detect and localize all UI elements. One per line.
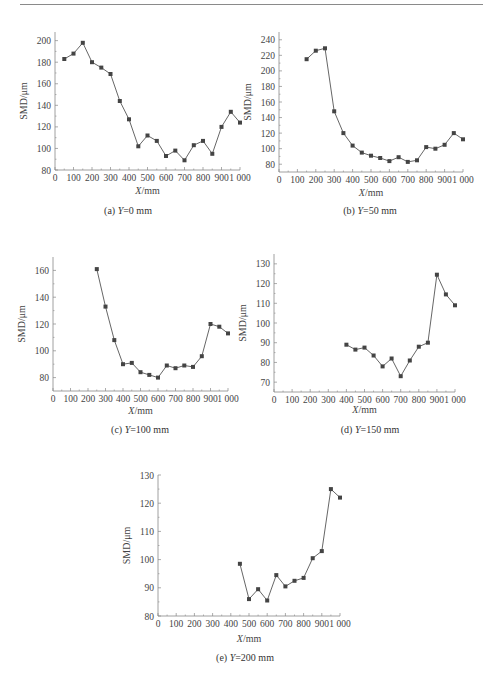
data-point [147, 373, 151, 377]
data-point [435, 273, 439, 277]
x-tick-label: 900 [214, 173, 229, 183]
data-point [226, 331, 230, 335]
x-tick-label: 200 [303, 395, 318, 405]
y-axis-label: SMD/μm [121, 526, 132, 564]
chart-caption: (a) Y=0 mm [104, 205, 152, 217]
data-point [341, 131, 345, 135]
y-tick-label: 70 [261, 378, 271, 388]
data-point [406, 160, 410, 164]
y-tick-label: 120 [35, 320, 50, 330]
data-point [353, 348, 357, 352]
caption-suffix: =150 mm [361, 424, 400, 435]
data-point [320, 549, 324, 553]
y-tick-label: 140 [35, 293, 50, 303]
caption-suffix: =50 mm [363, 205, 397, 216]
y-tick-label: 130 [140, 471, 155, 481]
caption-prefix: (e) [216, 652, 230, 664]
x-tick-label: 800 [296, 619, 311, 629]
chart-caption: (c) Y=100 mm [111, 424, 169, 436]
x-axis-label-unit: /mm [243, 633, 262, 644]
data-point [452, 131, 456, 135]
data-point [363, 346, 367, 350]
caption-suffix: =100 mm [130, 424, 169, 435]
data-point [302, 576, 306, 580]
x-tick-label: 400 [122, 173, 137, 183]
chart-panel-e: 01002003004005006007008009001 0008090100… [121, 471, 351, 665]
data-point [99, 66, 103, 70]
data-point [192, 143, 196, 147]
data-point [274, 573, 278, 577]
data-point [305, 57, 309, 61]
x-tick-label: 300 [321, 395, 336, 405]
data-point [417, 345, 421, 349]
data-point [121, 362, 125, 366]
data-point [314, 49, 318, 53]
chart-panel-c: 01002003004005006007008009001 0008010012… [16, 257, 239, 436]
x-axis-label-unit: /mm [365, 187, 384, 198]
y-tick-label: 100 [140, 555, 155, 565]
y-tick-label: 160 [35, 266, 50, 276]
x-axis-label: X/mm [127, 405, 153, 416]
chart-panel-d: 01002003004005006007008009001 0007080901… [237, 254, 466, 436]
data-point [130, 361, 134, 365]
x-tick-label: 600 [260, 619, 275, 629]
x-tick-label: 300 [98, 394, 113, 404]
x-tick-label: 700 [177, 173, 192, 183]
data-point [338, 496, 342, 500]
x-tick-label: 800 [412, 395, 427, 405]
data-point [217, 325, 221, 329]
x-tick-label: 0 [272, 395, 277, 405]
x-tick-label: 900 [437, 175, 452, 185]
data-point [164, 154, 168, 158]
data-point [424, 145, 428, 149]
data-point [443, 143, 447, 147]
data-point [381, 364, 385, 368]
x-tick-label: 700 [278, 619, 293, 629]
x-axis-label-unit: /mm [134, 405, 153, 416]
x-tick-label: 100 [66, 173, 81, 183]
y-tick-label: 90 [261, 338, 271, 348]
data-point [369, 154, 373, 158]
y-tick-label: 80 [266, 160, 276, 170]
data-point [344, 343, 348, 347]
data-point [238, 562, 242, 566]
x-axis-label: X/mm [351, 404, 377, 415]
data-point [256, 587, 260, 591]
x-tick-label: 1 000 [229, 173, 251, 183]
data-point [200, 354, 204, 358]
x-tick-label: 200 [309, 175, 324, 185]
y-tick-label: 160 [261, 98, 276, 108]
data-point [293, 579, 297, 583]
y-tick-label: 120 [261, 129, 276, 139]
data-point [360, 151, 364, 155]
x-axis-label: X/mm [236, 633, 262, 644]
data-point [165, 364, 169, 368]
y-tick-label: 200 [37, 36, 52, 46]
data-point [378, 156, 382, 160]
data-point [183, 158, 187, 162]
y-tick-label: 140 [261, 113, 276, 123]
x-tick-label: 400 [116, 394, 131, 404]
data-point [229, 110, 233, 114]
y-tick-label: 80 [40, 373, 50, 383]
y-tick-label: 180 [261, 82, 276, 92]
x-tick-label: 600 [375, 395, 390, 405]
x-tick-label: 700 [401, 175, 416, 185]
x-axis-label-unit: /mm [141, 185, 160, 196]
data-point [95, 267, 99, 271]
data-point [174, 366, 178, 370]
data-point [453, 303, 457, 307]
data-point [81, 41, 85, 45]
x-tick-label: 600 [382, 175, 397, 185]
data-point [201, 139, 205, 143]
data-point [210, 152, 214, 156]
data-point [173, 149, 177, 153]
x-tick-label: 100 [169, 619, 184, 629]
x-tick-label: 600 [159, 173, 174, 183]
data-point [209, 322, 213, 326]
y-tick-label: 80 [42, 166, 52, 176]
data-point [311, 556, 315, 560]
data-point [399, 374, 403, 378]
data-point [220, 125, 224, 129]
data-point [118, 99, 122, 103]
